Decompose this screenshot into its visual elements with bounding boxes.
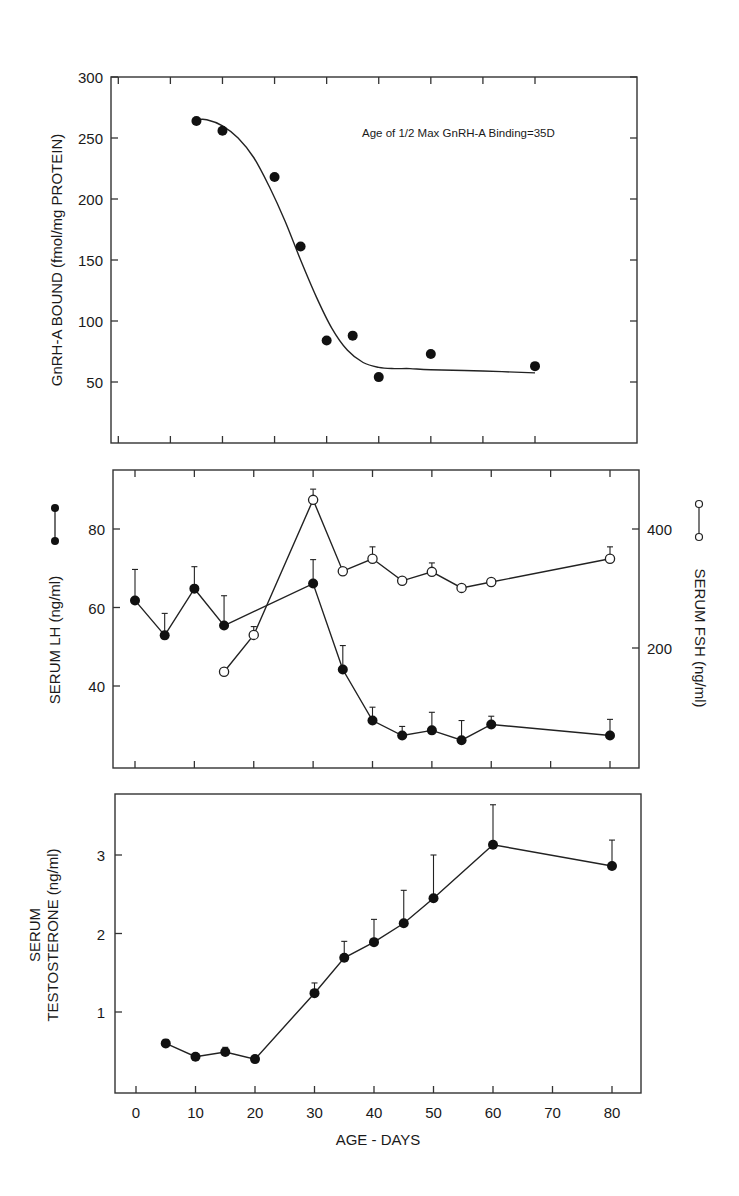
fsh-series-line — [224, 500, 610, 672]
data-point — [249, 630, 258, 639]
data-point — [191, 116, 201, 126]
top-y-axis-title: GnRH-A BOUND (fmol/mg PROTEIN) — [48, 134, 65, 387]
data-point — [339, 953, 349, 963]
y-tick-label: 80 — [88, 521, 105, 538]
data-point — [191, 1052, 201, 1062]
lh-legend-icon — [51, 504, 59, 545]
x-tick-label: 40 — [366, 1104, 383, 1121]
x-tick-label: 10 — [187, 1104, 204, 1121]
mid-y-axis-title-right: SERUM FSH (ng/ml) — [692, 568, 709, 707]
data-point — [296, 242, 306, 252]
data-point — [308, 579, 318, 589]
data-point — [398, 576, 407, 585]
data-point — [487, 577, 496, 586]
x-tick-label: 50 — [425, 1104, 442, 1121]
data-point — [488, 840, 498, 850]
fsh-legend-icon — [696, 501, 703, 541]
data-point — [217, 126, 227, 136]
data-point — [426, 349, 436, 359]
data-point — [530, 361, 540, 371]
data-point — [429, 893, 439, 903]
data-point — [605, 554, 614, 563]
data-point — [220, 1047, 230, 1057]
x-tick-label: 60 — [485, 1104, 502, 1121]
data-point — [250, 1054, 260, 1064]
data-point — [368, 716, 378, 726]
lh-series — [130, 560, 615, 746]
x-tick-label: 80 — [604, 1104, 621, 1121]
data-point — [270, 172, 280, 182]
data-point — [322, 336, 332, 346]
data-point — [219, 667, 228, 676]
data-point — [160, 630, 170, 640]
data-point — [399, 918, 409, 928]
data-point — [605, 730, 615, 740]
panel-serum-testosterone: 01020304050607080123 — [97, 794, 641, 1121]
data-point — [219, 621, 229, 631]
data-point — [374, 372, 384, 382]
x-axis-title: AGE - DAYS — [336, 1131, 421, 1148]
y-tick-label: 1 — [97, 1004, 105, 1021]
y-tick-label: 300 — [78, 69, 103, 86]
y-tick-label-right: 400 — [647, 521, 672, 538]
data-point — [338, 665, 348, 675]
y-tick-label: 200 — [78, 191, 103, 208]
data-point — [457, 735, 467, 745]
fsh-series — [219, 489, 614, 676]
x-tick-label: 30 — [306, 1104, 323, 1121]
y-tick-label: 100 — [78, 313, 103, 330]
y-tick-label: 3 — [97, 847, 105, 864]
data-point — [427, 725, 437, 735]
bot-y-axis-title-line1: SERUM — [26, 908, 43, 962]
y-tick-label: 60 — [88, 600, 105, 617]
y-tick-label-right: 200 — [647, 640, 672, 657]
data-point — [427, 567, 436, 576]
testosterone-series — [161, 805, 617, 1064]
x-tick-label: 0 — [132, 1104, 140, 1121]
data-point — [397, 730, 407, 740]
top-annotation: Age of 1/2 Max GnRH-A Binding=35D — [362, 127, 555, 139]
y-tick-label: 250 — [78, 130, 103, 147]
gnrh-series — [191, 116, 540, 382]
data-point — [310, 988, 320, 998]
fit-curve — [196, 119, 535, 373]
data-point — [338, 567, 347, 576]
data-point — [607, 861, 617, 871]
data-point — [368, 554, 377, 563]
x-tick-label: 70 — [544, 1104, 561, 1121]
y-tick-label: 50 — [86, 374, 103, 391]
data-point — [369, 937, 379, 947]
y-tick-label: 40 — [88, 678, 105, 695]
x-tick-label: 20 — [247, 1104, 264, 1121]
panel-gnrh-binding: 50100150200250300 — [78, 69, 637, 443]
testosterone-series-line — [166, 845, 612, 1059]
data-point — [309, 495, 318, 504]
mid-y-axis-title-left: SERUM LH (ng/ml) — [46, 576, 63, 704]
bot-y-axis-title-line2: TESTOSTERONE (ng/ml) — [44, 848, 61, 1021]
y-tick-label: 2 — [97, 926, 105, 943]
panel-serum-lh-fsh: 406080200400 — [88, 470, 672, 768]
data-point — [348, 331, 358, 341]
figure: 50100150200250300 406080200400 010203040… — [0, 0, 739, 1196]
y-tick-label: 150 — [78, 252, 103, 269]
data-point — [130, 595, 140, 605]
data-point — [161, 1038, 171, 1048]
data-point — [189, 584, 199, 594]
data-point — [486, 719, 496, 729]
data-point — [457, 583, 466, 592]
